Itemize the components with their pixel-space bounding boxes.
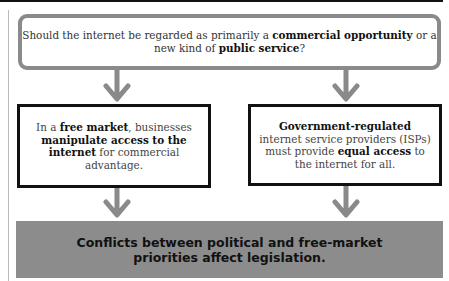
conclusion-bar: Conflicts between political and free-mar… [16,221,443,278]
text-bold: Government-regulated [279,120,411,132]
question-box: Should the internet be regarded as prima… [18,14,441,70]
arrow-down-icon [331,186,361,218]
arrow-down-icon [102,188,132,218]
arrow-down-icon [102,68,132,102]
text-span: In a [36,121,60,133]
conclusion-line-1: Conflicts between political and free-mar… [77,235,383,250]
text-bold: commercial opportunity [272,29,412,41]
top-rule [0,0,443,2]
arrow-down-icon [331,68,361,102]
margin-line [8,10,9,281]
text-bold: equal access [338,145,411,157]
free-market-text: In a free market, businesses manipulate … [26,121,202,171]
text-span: Should the internet be regarded as prima… [22,29,272,41]
conclusion-line-2: priorities affect legislation. [77,250,383,265]
text-bold: free market [60,121,129,133]
text-span: for commercial advantage. [85,146,179,171]
text-span: ? [299,42,305,54]
government-regulated-box: Government-regulated internet service pr… [248,104,442,186]
free-market-box: In a free market, businesses manipulate … [17,104,211,188]
conclusion-text: Conflicts between political and free-mar… [77,235,383,265]
question-text: Should the internet be regarded as prima… [22,29,437,55]
text-span: , businesses [128,121,192,133]
text-bold: public service [219,42,300,54]
government-regulated-text: Government-regulated internet service pr… [257,120,433,170]
